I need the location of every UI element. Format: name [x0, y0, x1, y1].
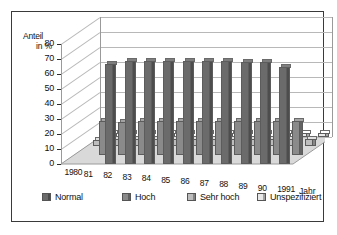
x-tick-label: 88: [219, 179, 228, 189]
legend-swatch: [122, 193, 131, 201]
x-tick-label: 82: [103, 170, 112, 180]
bar-side: [209, 61, 213, 165]
x-tick-label: 1980: [64, 167, 82, 177]
bar-side: [132, 61, 136, 165]
bar-side: [248, 62, 252, 164]
legend-swatch: [42, 193, 51, 201]
chart-legend: NormalHochSehr hochUnspezifiziert: [12, 193, 325, 217]
bar: [305, 139, 315, 147]
legend-swatch-side: [263, 194, 266, 200]
x-tick-label: 90: [258, 183, 267, 193]
bar-side: [190, 61, 194, 165]
bar-side: [312, 139, 316, 147]
x-tick-label: 89: [238, 181, 247, 191]
bar-side: [112, 64, 116, 165]
legend-label: Hoch: [135, 192, 155, 202]
bar: [163, 61, 173, 165]
legend-swatch: [187, 193, 196, 201]
x-tick-label: 85: [161, 175, 170, 185]
bar-side: [325, 133, 329, 138]
x-tick-label: 86: [180, 176, 189, 186]
axis-line: [332, 17, 333, 137]
legend-swatch: [257, 193, 266, 201]
chart-plot-area: Anteil in % 01020304050607080 1980818283…: [12, 12, 325, 188]
bar: [105, 64, 115, 165]
bar-side: [170, 61, 174, 165]
x-tick-label: 81: [84, 169, 93, 179]
bar: [183, 61, 193, 165]
bar: [202, 61, 212, 165]
bar: [125, 61, 135, 165]
legend-label: Normal: [55, 192, 83, 202]
chart-frame: Anteil in % 01020304050607080 1980818283…: [11, 11, 324, 222]
bar: [260, 62, 270, 164]
bar: [221, 61, 231, 165]
legend-swatch-side: [48, 194, 51, 200]
bar-side: [151, 61, 155, 165]
legend-label: Sehr hoch: [200, 192, 239, 202]
bar: [241, 62, 251, 164]
x-tick-label: 87: [200, 178, 209, 188]
bar-side: [286, 67, 290, 165]
bar: [279, 67, 289, 165]
bar: [318, 133, 328, 138]
legend-swatch-side: [193, 194, 196, 200]
bar: [292, 121, 302, 156]
x-tick-label: 83: [122, 172, 131, 182]
bar: [144, 61, 154, 165]
x-tick-label: 84: [142, 173, 151, 183]
bar-side: [267, 62, 271, 164]
bar-side: [228, 61, 232, 165]
legend-swatch-side: [128, 194, 131, 200]
legend-label: Unspezifiziert: [270, 192, 321, 202]
bar-side: [299, 121, 303, 156]
